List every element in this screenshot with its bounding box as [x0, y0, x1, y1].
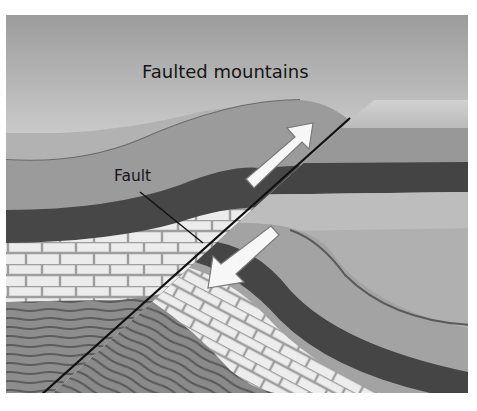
- fault-label: Fault: [114, 167, 151, 185]
- diagram-title: Faulted mountains: [142, 61, 309, 82]
- faulted-mountains-diagram: Faulted mountains Fault: [0, 0, 477, 411]
